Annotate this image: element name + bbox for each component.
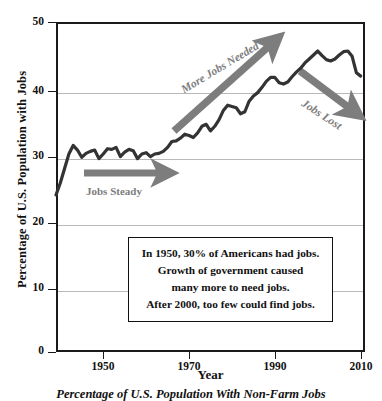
callout-line-2: Growth of government caused	[135, 262, 326, 279]
callout-line-1: In 1950, 30% of Americans had jobs.	[135, 245, 326, 262]
data-series-layer	[0, 0, 382, 401]
callout-line-4: After 2000, too few could find jobs.	[135, 296, 326, 313]
callout-box: In 1950, 30% of Americans had jobs. Grow…	[128, 237, 333, 322]
figure-caption: Percentage of U.S. Population With Non-F…	[0, 387, 382, 401]
annotation-label-jobs-steady: Jobs Steady	[86, 185, 142, 197]
callout-line-3: many more to need jobs.	[135, 279, 326, 296]
chart-figure: Percentage of U.S. Population with Jobs …	[0, 0, 382, 401]
